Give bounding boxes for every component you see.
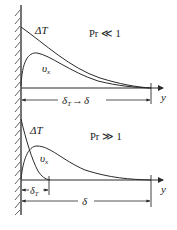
- top-velocity-curve: [21, 53, 151, 88]
- bottom-condition-label: Pr ≫ 1: [90, 131, 122, 142]
- bottom-thermal-thickness-label: δT: [30, 185, 39, 197]
- top-axis-label: y: [160, 91, 166, 103]
- bottom-velocity-label: υx: [40, 152, 49, 166]
- top-condition-label: Pr ≪ 1: [89, 28, 121, 39]
- top-temperature-label: ΔT: [34, 24, 48, 36]
- bottom-velocity-thickness-label: δ: [82, 195, 88, 207]
- top-dimension-label: δT→δ: [62, 94, 90, 108]
- wall: [15, 5, 21, 215]
- boundary-layer-diagram: ΔT Pr ≪ 1 υx y δT→δ ΔT Pr ≫ 1 υx y δT δ: [0, 0, 177, 230]
- top-temperature-curve: [21, 27, 151, 88]
- top-panel: ΔT Pr ≪ 1 υx y δT→δ: [21, 24, 166, 108]
- bottom-panel: ΔT Pr ≫ 1 υx y δT δ: [21, 119, 166, 207]
- top-velocity-label: υx: [42, 62, 51, 76]
- bottom-axis-label: y: [160, 183, 166, 195]
- bottom-temperature-label: ΔT: [29, 124, 43, 136]
